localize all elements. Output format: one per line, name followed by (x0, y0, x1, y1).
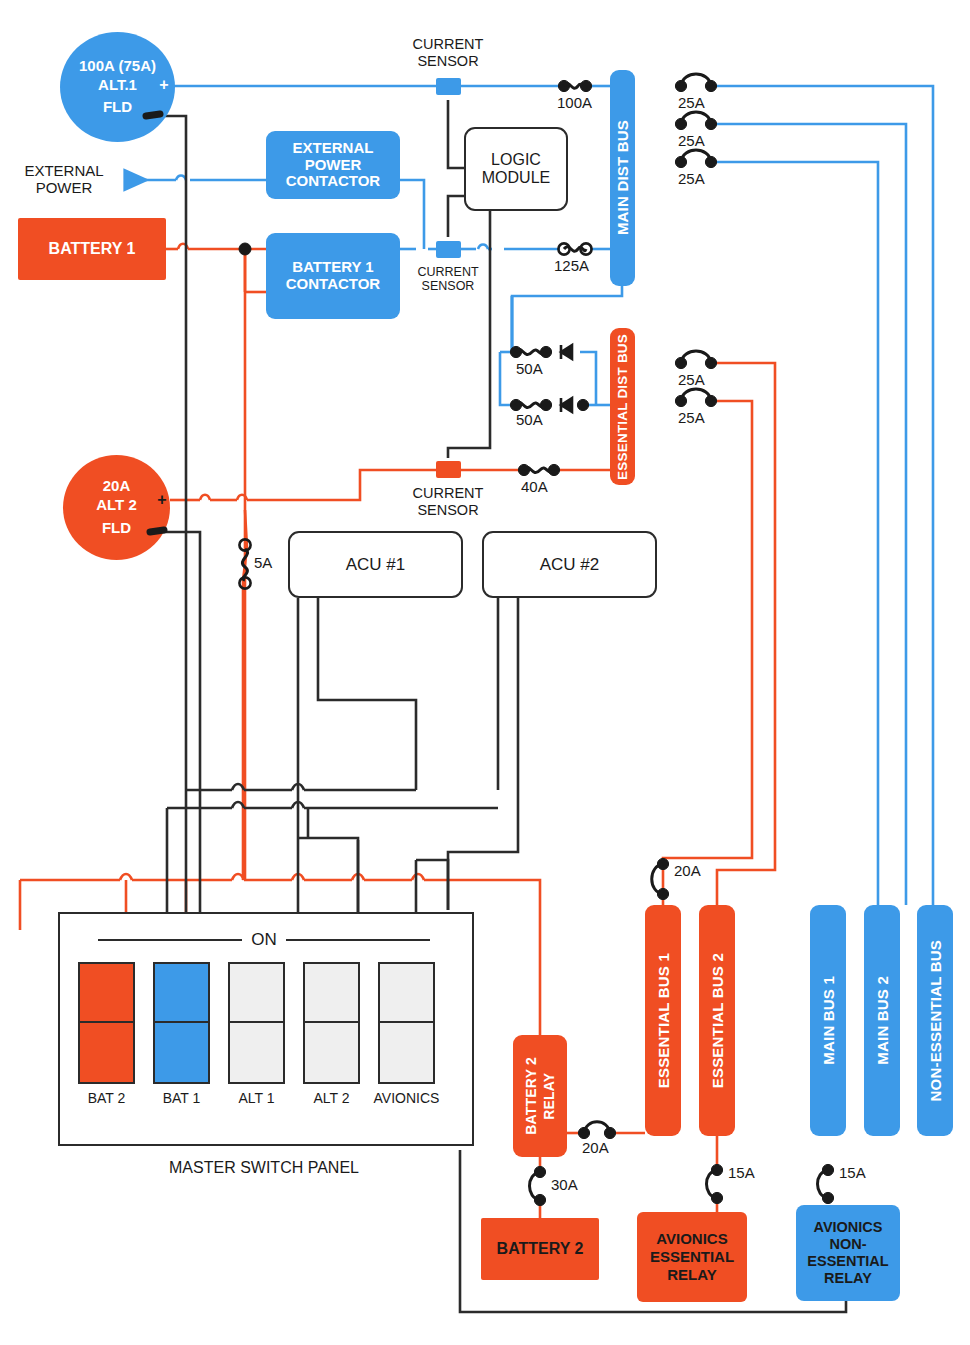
switch-bat-1-bottom[interactable] (155, 1023, 208, 1082)
essential-dist-bus: ESSENTIAL DIST BUS (610, 328, 635, 485)
battery-2: BATTERY 2 (481, 1218, 599, 1280)
fuse-15a-noness-glyph (818, 1164, 834, 1203)
acu-1-label: ACU #1 (346, 555, 406, 575)
battery-2-relay: BATTERY 2RELAY (513, 1035, 567, 1157)
fuse-label-15a-noness: 15A (839, 1164, 866, 1181)
main-bus-2-label: MAIN BUS 2 (874, 976, 891, 1065)
on-line-left (98, 939, 242, 941)
fuse-label-50a-2: 50A (516, 411, 543, 428)
essential-dist-bus-label: ESSENTIAL DIST BUS (615, 334, 630, 480)
switch-alt-1[interactable] (228, 962, 285, 1084)
fuse-label-25a-3: 25A (678, 170, 705, 187)
fuse-5a-glyph (239, 539, 250, 588)
external-power-contactor: EXTERNAL POWER CONTACTOR (266, 131, 400, 199)
avionics-essential-relay: AVIONICS ESSENTIAL RELAY (637, 1212, 747, 1302)
on-label: ON (242, 930, 286, 950)
fuse-15a-ess-glyph (707, 1164, 723, 1203)
battery-1: BATTERY 1 (18, 218, 166, 280)
fuse-100a-glyph (558, 80, 591, 91)
switch-avionics[interactable] (378, 962, 435, 1084)
acu-2-label: ACU #2 (540, 555, 600, 575)
switch-alt-1-top[interactable] (230, 964, 283, 1023)
alt2-name: ALT 2 (96, 496, 137, 515)
cs-alt2-line2: SENSOR (417, 502, 478, 519)
main-bus-1-label: MAIN BUS 1 (820, 976, 837, 1065)
essential-bus-2: ESSENTIAL BUS 2 (699, 905, 735, 1136)
switch-alt-2-top[interactable] (305, 964, 358, 1023)
logic-module: LOGIC MODULE (464, 127, 568, 211)
current-sensor-battery-chip (436, 241, 461, 258)
cs-top-line2: SENSOR (417, 53, 478, 70)
aer-line2: ESSENTIAL (650, 1248, 734, 1266)
fuse-label-30a: 30A (551, 1176, 578, 1193)
switch-alt-2-bottom[interactable] (305, 1023, 358, 1082)
cs-alt2-line1: CURRENT (413, 485, 484, 502)
current-sensor-alt2-label: CURRENT SENSOR (398, 482, 498, 522)
fuse-25a-2-glyph (675, 112, 716, 130)
switch-bat-2-top[interactable] (80, 964, 133, 1023)
fuse-25a-1-glyph (675, 74, 716, 92)
fuse-label-20a-ess1: 20A (674, 862, 701, 879)
external-power-label: EXTERNAL POWER (10, 156, 118, 202)
battery-2-relay-label: BATTERY 2RELAY (523, 1057, 558, 1135)
acu-1: ACU #1 (288, 531, 463, 598)
fuse-label-20a-b2r: 20A (582, 1139, 609, 1156)
switch-label-bat-1: BAT 1 (153, 1090, 210, 1106)
fuse-label-100a: 100A (557, 94, 592, 111)
main-bus-2: MAIN BUS 2 (864, 905, 900, 1136)
switch-label-bat-2: BAT 2 (78, 1090, 135, 1106)
acu-2: ACU #2 (482, 531, 657, 598)
fuse-50a-2-glyph (510, 399, 551, 410)
junction-dot-diode (577, 399, 588, 410)
battery-1-contactor: BATTERY 1 CONTACTOR (266, 233, 400, 319)
fuse-30a-glyph (530, 1166, 546, 1205)
electrical-system-diagram: 100A (75A) ALT.1 FLD + 20A ALT 2 FLD + E… (0, 0, 970, 1345)
b1c-line1: BATTERY 1 (292, 259, 373, 276)
switch-bat-1-top[interactable] (155, 964, 208, 1023)
alt1-name: ALT.1 (98, 76, 137, 95)
fuse-125a-glyph (558, 243, 591, 254)
b1c-line2: CONTACTOR (286, 276, 380, 293)
switch-label-avionics: AVIONICS (371, 1090, 442, 1106)
alt2-rating: 20A (103, 477, 131, 496)
alt2-fld: FLD (102, 519, 131, 538)
external-power-line1: EXTERNAL (24, 162, 103, 179)
switch-alt-1-bottom[interactable] (230, 1023, 283, 1082)
master-switch-panel-title: MASTER SWITCH PANEL (58, 1156, 470, 1180)
cs-battery-line1: CURRENT (417, 265, 478, 280)
aner-line3: ESSENTIAL (807, 1253, 888, 1270)
aner-line4: RELAY (824, 1270, 872, 1287)
switch-bat-1[interactable] (153, 962, 210, 1084)
current-sensor-alt2-chip (436, 461, 461, 478)
essential-bus-1: ESSENTIAL BUS 1 (645, 905, 681, 1136)
battery-2-label: BATTERY 2 (497, 1240, 584, 1258)
panel-on-indicator: ON (98, 928, 430, 952)
fuse-label-25a-2: 25A (678, 132, 705, 149)
fuse-label-25a-ess-2: 25A (678, 409, 705, 426)
switch-avionics-top[interactable] (380, 964, 433, 1023)
fuse-25a-ess-2-glyph (675, 389, 716, 407)
fuse-20a-b2r-glyph (578, 1122, 615, 1139)
on-line-right (286, 939, 430, 941)
non-essential-bus: NON-ESSENTIAL BUS (917, 905, 953, 1136)
switch-bat-2[interactable] (78, 962, 135, 1084)
switch-bat-2-bottom[interactable] (80, 1023, 133, 1082)
logic-module-line2: MODULE (482, 169, 550, 187)
aner-line2: NON- (829, 1236, 866, 1253)
alt2-plus-terminal: + (154, 491, 170, 509)
main-dist-bus-label: MAIN DIST BUS (614, 120, 631, 235)
switch-avionics-bottom[interactable] (380, 1023, 433, 1082)
fuse-25a-ess-1-glyph (675, 351, 716, 369)
fuse-25a-3-glyph (675, 150, 716, 168)
switch-label-alt-1: ALT 1 (228, 1090, 285, 1106)
external-power-line2: POWER (36, 179, 93, 196)
logic-module-line1: LOGIC (491, 151, 541, 169)
alt1-rating: 100A (75A) (79, 57, 156, 76)
current-sensor-battery-label: CURRENT SENSOR (400, 262, 496, 296)
fuse-label-50a-1: 50A (516, 360, 543, 377)
epc-line1: EXTERNAL (293, 140, 374, 157)
diode-2-glyph (561, 398, 572, 412)
switch-alt-2[interactable] (303, 962, 360, 1084)
fuse-label-25a-ess-1: 25A (678, 371, 705, 388)
fuse-label-15a-ess: 15A (728, 1164, 755, 1181)
